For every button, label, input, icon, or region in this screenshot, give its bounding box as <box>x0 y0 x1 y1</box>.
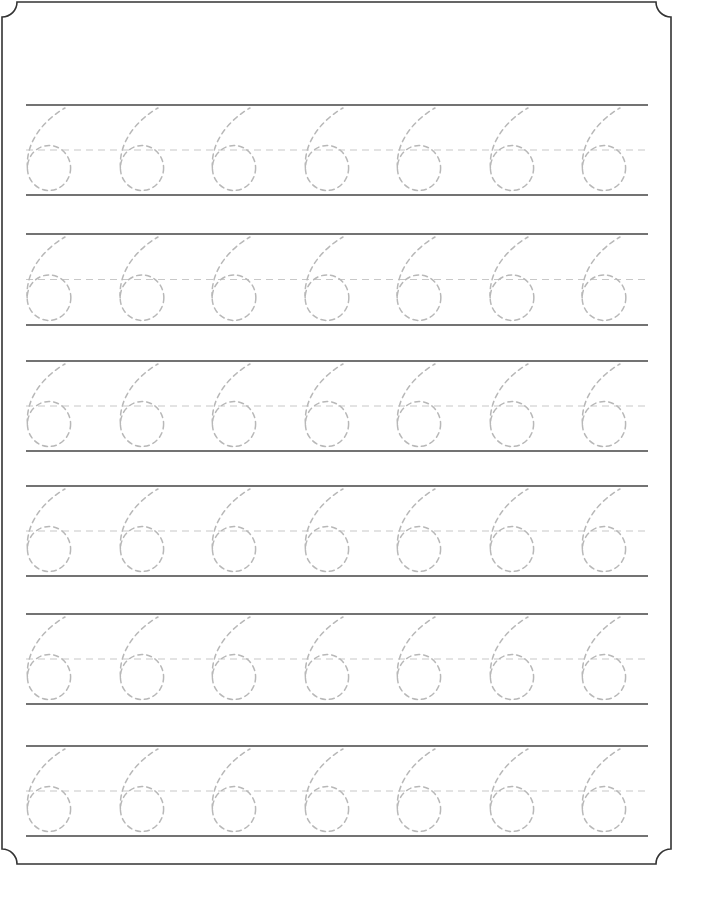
trace-digit-6 <box>397 489 440 572</box>
digit-loop <box>305 146 348 191</box>
digit-stem <box>120 749 158 809</box>
digit-stem <box>582 364 620 424</box>
trace-digit-6 <box>490 489 533 572</box>
tracing-row <box>26 105 648 195</box>
trace-digit-6 <box>305 489 348 572</box>
digit-loop <box>397 527 440 572</box>
trace-digit-6 <box>397 108 440 191</box>
digit-loop <box>212 527 255 572</box>
trace-digit-6 <box>582 364 625 447</box>
trace-digit-6 <box>305 749 348 832</box>
digit-stem <box>305 364 343 424</box>
digit-loop <box>582 527 625 572</box>
border-path <box>2 2 671 864</box>
digit-loop <box>582 275 626 321</box>
digit-loop <box>397 655 440 700</box>
digit-stem <box>582 108 620 168</box>
digit-stem <box>27 617 65 677</box>
digit-stem <box>27 108 65 168</box>
digit-stem <box>212 108 250 168</box>
digit-loop <box>305 787 348 832</box>
digit-loop <box>397 402 440 447</box>
trace-digit-6 <box>27 617 70 700</box>
digit-stem <box>212 364 250 424</box>
digit-loop <box>305 275 349 321</box>
digit-loop <box>305 527 348 572</box>
digit-stem <box>212 489 250 549</box>
digit-stem <box>212 237 250 298</box>
digit-stem <box>27 237 65 298</box>
digit-loop <box>582 787 625 832</box>
digit-stem <box>582 749 620 809</box>
digit-stem <box>397 489 435 549</box>
digit-loop <box>27 402 70 447</box>
tracing-rows <box>26 105 648 836</box>
trace-digit-6 <box>582 237 626 320</box>
trace-digit-6 <box>582 108 625 191</box>
digit-loop <box>27 146 70 191</box>
digit-loop <box>490 655 533 700</box>
page-border <box>2 2 671 864</box>
digit-stem <box>120 617 158 677</box>
trace-digit-6 <box>27 237 71 320</box>
trace-digit-6 <box>120 237 164 320</box>
trace-digit-6 <box>305 364 348 447</box>
digit-stem <box>490 108 528 168</box>
digit-stem <box>305 237 343 298</box>
digit-loop <box>490 275 534 321</box>
digit-loop <box>305 655 348 700</box>
digit-loop <box>212 275 256 321</box>
trace-digit-6 <box>397 364 440 447</box>
digit-stem <box>490 237 528 298</box>
digit-stem <box>305 108 343 168</box>
digit-stem <box>305 749 343 809</box>
digit-loop <box>27 655 70 700</box>
digit-stem <box>490 364 528 424</box>
digit-loop <box>490 146 533 191</box>
trace-digit-6 <box>490 237 534 320</box>
digit-loop <box>397 787 440 832</box>
trace-digit-6 <box>27 364 70 447</box>
digit-stem <box>397 237 435 298</box>
trace-digit-6 <box>120 489 163 572</box>
trace-digit-6 <box>27 108 70 191</box>
digit-loop <box>490 402 533 447</box>
digit-loop <box>120 275 164 321</box>
digit-stem <box>27 749 65 809</box>
digit-stem <box>397 749 435 809</box>
trace-digit-6 <box>397 749 440 832</box>
digit-loop <box>397 146 440 191</box>
digit-stem <box>212 617 250 677</box>
digit-loop <box>212 146 255 191</box>
digit-loop <box>582 146 625 191</box>
trace-digit-6 <box>305 617 348 700</box>
digit-loop <box>490 787 533 832</box>
digit-loop <box>120 527 163 572</box>
trace-digit-6 <box>582 617 625 700</box>
trace-digit-6 <box>27 489 70 572</box>
trace-digit-6 <box>490 617 533 700</box>
trace-digit-6 <box>490 108 533 191</box>
tracing-row <box>26 746 648 836</box>
trace-digit-6 <box>305 108 348 191</box>
digit-loop <box>27 527 70 572</box>
trace-digit-6 <box>120 749 163 832</box>
digit-stem <box>212 749 250 809</box>
digit-stem <box>490 749 528 809</box>
tracing-row <box>26 614 648 704</box>
digit-loop <box>397 275 441 321</box>
trace-digit-6 <box>212 489 255 572</box>
trace-digit-6 <box>27 749 70 832</box>
trace-digit-6 <box>397 237 441 320</box>
trace-digit-6 <box>120 364 163 447</box>
digit-loop <box>120 655 163 700</box>
digit-loop <box>120 402 163 447</box>
trace-digit-6 <box>490 749 533 832</box>
digit-stem <box>582 237 620 298</box>
digit-stem <box>397 617 435 677</box>
tracing-worksheet <box>0 0 705 913</box>
digit-stem <box>120 108 158 168</box>
digit-stem <box>120 237 158 298</box>
trace-digit-6 <box>212 108 255 191</box>
digit-loop <box>212 655 255 700</box>
